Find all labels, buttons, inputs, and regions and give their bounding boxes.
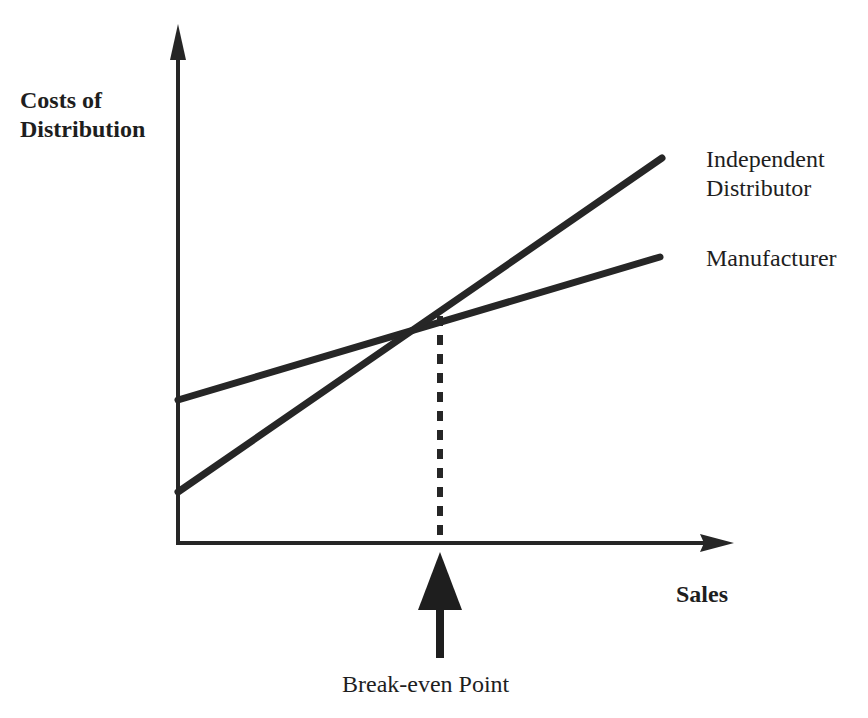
x-axis [176,534,734,552]
x-axis-label: Sales [676,580,728,609]
independent-distributor-label-line1: Independent [706,145,825,174]
break-even-arrow-icon [418,552,462,658]
x-axis-arrowhead-icon [700,534,734,552]
y-axis-label-line1: Costs of [20,86,145,115]
y-axis-arrowhead-icon [170,24,186,60]
y-axis [170,24,186,544]
y-axis-label: Costs of Distribution [20,86,145,144]
break-even-point-label: Break-even Point [342,670,509,699]
manufacturer-label: Manufacturer [706,244,837,273]
independent-distributor-label: Independent Distributor [706,145,825,203]
independent-distributor-cost-line [178,158,662,492]
y-axis-label-line2: Distribution [20,115,145,144]
independent-distributor-label-line2: Distributor [706,174,825,203]
